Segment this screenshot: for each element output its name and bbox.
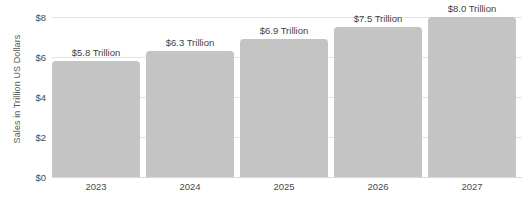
x-tick-label: 2023: [52, 181, 140, 192]
bar[interactable]: [428, 17, 516, 177]
y-tick-label: $0: [6, 172, 46, 183]
bar-value-label: $8.0 Trillion: [410, 3, 527, 14]
y-tick-label: $8: [6, 12, 46, 23]
bar-group[interactable]: $6.9 Trillion: [240, 17, 328, 177]
x-tick-label: 2027: [428, 181, 516, 192]
x-tick-label: 2024: [146, 181, 234, 192]
bar-group[interactable]: $7.5 Trillion: [334, 17, 422, 177]
bar-group[interactable]: $5.8 Trillion: [52, 17, 140, 177]
bar-value-label: $5.8 Trillion: [34, 47, 158, 58]
x-tick-label: 2026: [334, 181, 422, 192]
y-tick-label: $4: [6, 92, 46, 103]
bar-value-label: $6.9 Trillion: [222, 25, 346, 36]
x-axis-ticks: 20232024202520262027: [52, 181, 522, 197]
bar-group[interactable]: $6.3 Trillion: [146, 17, 234, 177]
gridline: [52, 177, 522, 178]
bar[interactable]: [334, 27, 422, 177]
bar-chart: Sales in Trillion US Dollars $5.8 Trilli…: [0, 0, 527, 215]
y-tick-label: $6: [6, 52, 46, 63]
bar[interactable]: [146, 51, 234, 177]
y-tick-label: $2: [6, 132, 46, 143]
bar[interactable]: [52, 61, 140, 177]
x-tick-label: 2025: [240, 181, 328, 192]
plot-area: $5.8 Trillion$6.3 Trillion$6.9 Trillion$…: [52, 17, 522, 177]
bars-layer: $5.8 Trillion$6.3 Trillion$6.9 Trillion$…: [52, 17, 522, 177]
bar[interactable]: [240, 39, 328, 177]
bar-value-label: $7.5 Trillion: [316, 13, 440, 24]
bar-value-label: $6.3 Trillion: [128, 37, 252, 48]
y-axis-ticks: $0$2$4$6$8: [0, 17, 46, 177]
bar-group[interactable]: $8.0 Trillion: [428, 17, 516, 177]
